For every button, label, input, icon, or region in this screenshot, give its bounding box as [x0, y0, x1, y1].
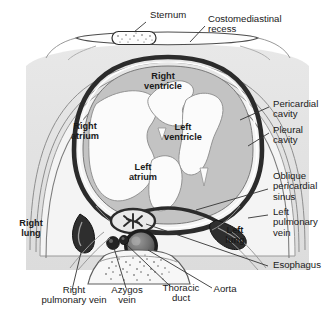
label-oblique-pericardial-sinus: Oblique pericardial sinus: [273, 171, 317, 202]
label-left-atrium: Left atrium: [119, 163, 167, 183]
label-esophagus: Esophagus: [273, 260, 321, 270]
label-left-pulmonary-vein: Left pulmonary vein: [273, 207, 318, 238]
esophagus-structure: [111, 209, 155, 233]
anatomy-diagram: Sternum Costomediastinal recess Pericard…: [0, 0, 335, 319]
label-left-lung: Left lung: [214, 226, 256, 246]
label-thoracic-duct: Thoracic duct: [156, 283, 206, 304]
thoracic-duct-vessel: [119, 235, 128, 244]
label-pericardial-cavity: Pericardial cavity: [273, 99, 318, 120]
right-atrium-lumen: [89, 91, 157, 201]
label-aorta: Aorta: [206, 284, 244, 294]
label-sternum: Sternum: [150, 10, 186, 20]
label-pleural-cavity: Pleural cavity: [273, 125, 303, 146]
label-costomediastinal-recess: Costomediastinal recess: [208, 14, 282, 35]
cross-section-illustration: [0, 0, 335, 319]
label-right-atrium: Right atrium: [58, 122, 112, 142]
label-left-ventricle: Left ventricle: [155, 123, 211, 143]
label-right-ventricle: Right ventricle: [133, 72, 193, 92]
label-azygos-vein: Azygos vein: [104, 285, 150, 306]
label-right-lung: Right lung: [8, 219, 54, 239]
label-right-pulmonary-vein: Right pulmonary vein: [36, 285, 112, 306]
